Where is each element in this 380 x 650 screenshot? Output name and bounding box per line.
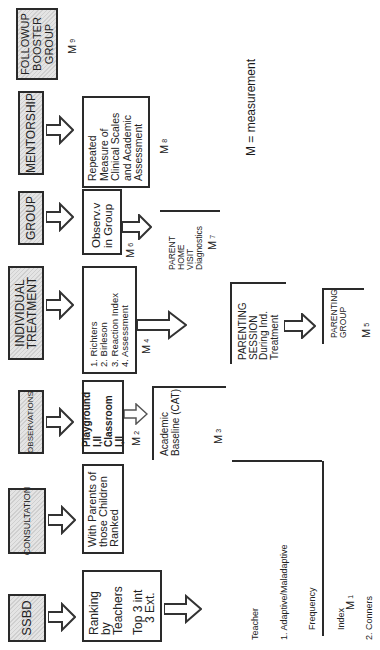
header-mentorship: MENTORSHIP [18,91,44,175]
parenting-group-bracket [322,288,364,344]
arrow-down-icon [46,290,74,320]
legend-measurement: M = measurement [244,59,258,156]
box-line: Ranked [109,471,120,547]
box-line: in Group [102,196,114,248]
box-line: Assessment [133,103,145,181]
arrow-down-icon [124,403,148,425]
list-line: 2. Conners [365,540,375,640]
arrow-down-icon [46,115,74,145]
header-followup-label-3: GROUP [43,24,55,64]
measure-m4: M4 [140,341,152,354]
header-group: GROUP [18,191,44,245]
measure-m6: M6 [124,245,136,258]
box-line: 2. Birleson [99,273,110,367]
header-observations: OBSERVATIONS [18,390,44,454]
arrow-down-icon [137,310,187,340]
box-line: Playground I,II [81,387,103,447]
header-followup-label-2: BOOSTER [31,17,43,71]
measure-m9: M9 [66,41,78,54]
measure-m8: M8 [158,141,170,154]
box-line: With Parents of [87,471,98,547]
box-line: 3 Ext. [144,577,156,635]
parenting-session-bracket [230,282,286,364]
arrow-down-icon [284,313,316,339]
box-line: those Children [98,471,109,547]
arrow-down-icon [122,214,152,240]
list-line: Index [337,540,347,640]
measure-m3: M3 [212,431,224,444]
box-playground-classroom: Playground I,II Classroom I,II [82,380,124,454]
list-line: 1. Adaptive/Maladaptive [280,540,290,640]
arrow-down-icon [46,202,74,232]
teacher-bracket-end [232,460,322,462]
header-individual-label-2: TREATMENT [26,277,38,349]
box-line: Ranking by [88,577,112,635]
list-line: Frequency [308,540,318,640]
header-observations-label: OBSERVATIONS [25,391,37,453]
header-ssbd-label: SSBD [21,600,33,635]
box-line: Classroom I,II [103,387,125,447]
box-ranking-by-teachers: Ranking by Teachers Top 3 int 3 Ext. [82,570,162,642]
header-group-label: GROUP [25,196,37,240]
academic-bracket [152,386,226,460]
arrow-down-icon [46,407,74,437]
measure-m5: M5 [360,325,372,338]
arrow-down-icon [48,505,76,535]
box-line: Teachers [112,577,124,635]
header-mentorship-label: MENTORSHIP [25,93,37,173]
list-line: Teacher [251,540,261,640]
header-followup-label-1: FOLLOWUP [19,13,31,75]
box-line: 4. Assessment [120,273,131,367]
header-individual-treatment: INDIVIDUAL TREATMENT [8,266,44,360]
box-repeated-measure: Repeated Measure of Clinical Scales and … [82,96,150,188]
measure-m1: M1 [344,597,356,610]
box-individual-assessments: 1. Richters 2. Birleson 3. Reaction Inde… [82,266,137,374]
flow-diagram: SSBD CONSULTATION OBSERVATIONS INDIVIDUA… [0,0,380,650]
header-followup: FOLLOWUP BOOSTER GROUP [16,8,58,80]
teacher-bracket-line [322,461,324,636]
box-observ-in-group: Observ.v in Group [82,189,122,255]
measure-m7: M7 [206,237,218,250]
header-ssbd: SSBD [8,594,46,642]
arrow-down-icon [164,594,202,624]
header-consultation: CONSULTATION [8,488,46,554]
arrow-down-icon [48,602,76,632]
measure-m2: M2 [130,433,142,446]
header-consultation-label: CONSULTATION [21,487,33,556]
box-line: Observ.v [90,196,102,248]
box-with-parents: With Parents of those Children Ranked [82,464,124,554]
teacher-measures-list: Teacher 1. Adaptive/Maladaptive Frequenc… [232,540,380,640]
